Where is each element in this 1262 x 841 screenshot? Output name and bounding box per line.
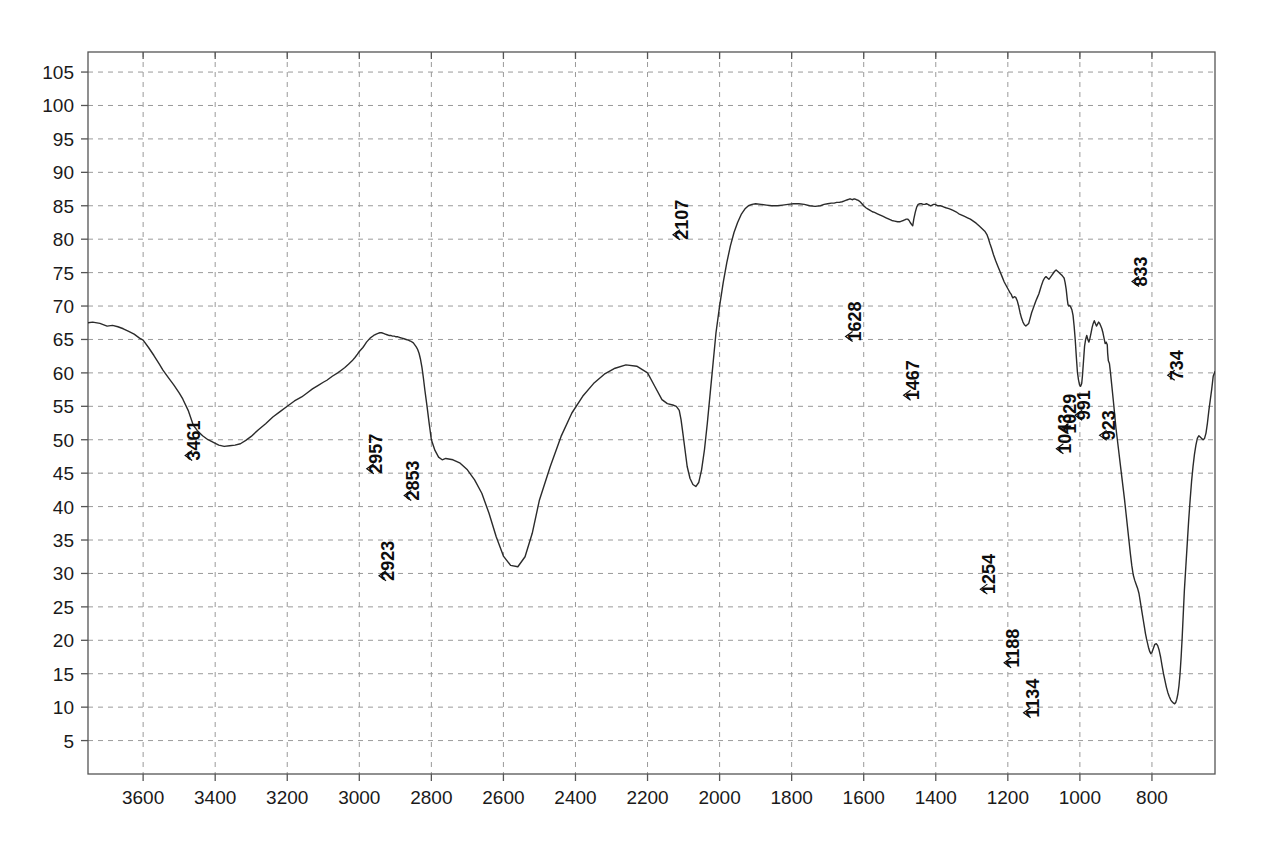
y-tick-label: 105 bbox=[42, 62, 74, 83]
spectrum-chart: 3600340032003000280026002400220020001800… bbox=[0, 0, 1262, 841]
peak-annotation: 923 bbox=[1099, 410, 1119, 440]
peak-annotation: 734 bbox=[1167, 350, 1187, 380]
peak-label-text: 2107 bbox=[672, 200, 692, 240]
y-tick-label: 25 bbox=[53, 597, 74, 618]
x-tick-label: 1000 bbox=[1059, 787, 1101, 808]
y-tick-label: 90 bbox=[53, 162, 74, 183]
peak-label-text: 3461 bbox=[184, 420, 204, 460]
y-tick-label: 95 bbox=[53, 129, 74, 150]
peak-annotation: 1254 bbox=[979, 554, 999, 594]
y-tick-label: 85 bbox=[53, 196, 74, 217]
peak-annotation: 1467 bbox=[903, 360, 923, 400]
peak-label-text: 2853 bbox=[403, 460, 423, 500]
y-tick-label: 40 bbox=[53, 497, 74, 518]
x-tick-label: 2200 bbox=[626, 787, 668, 808]
peak-label-text: 1254 bbox=[979, 554, 999, 594]
x-tick-label: 1400 bbox=[915, 787, 957, 808]
y-tick-label: 55 bbox=[53, 396, 74, 417]
y-tick-label: 45 bbox=[53, 463, 74, 484]
x-tick-label: 3600 bbox=[122, 787, 164, 808]
x-tick-label: 1200 bbox=[987, 787, 1029, 808]
peak-annotation: 833 bbox=[1131, 257, 1151, 287]
x-tick-label: 3200 bbox=[266, 787, 308, 808]
x-tick-label: 3000 bbox=[338, 787, 380, 808]
y-tick-label: 80 bbox=[53, 229, 74, 250]
peak-label-text: 1467 bbox=[903, 360, 923, 400]
y-tick-label: 50 bbox=[53, 430, 74, 451]
y-tick-label: 65 bbox=[53, 329, 74, 350]
x-tick-label: 800 bbox=[1136, 787, 1168, 808]
peak-label-text: 2957 bbox=[366, 434, 386, 474]
y-tick-label: 75 bbox=[53, 263, 74, 284]
y-tick-label: 15 bbox=[53, 664, 74, 685]
peak-annotation: 991 bbox=[1074, 390, 1094, 420]
peak-annotation: 1134 bbox=[1023, 679, 1043, 718]
peak-annotation: 1628 bbox=[845, 301, 865, 341]
x-tick-label: 2800 bbox=[410, 787, 452, 808]
peak-annotation: 2107 bbox=[672, 200, 692, 240]
x-tick-labels: 3600340032003000280026002400220020001800… bbox=[122, 787, 1168, 808]
y-tick-label: 10 bbox=[53, 697, 74, 718]
y-tick-label: 20 bbox=[53, 630, 74, 651]
y-tick-label: 100 bbox=[42, 95, 74, 116]
peak-annotation: 1188 bbox=[1003, 629, 1023, 668]
y-tick-label: 30 bbox=[53, 563, 74, 584]
peak-annotation: 2853 bbox=[403, 460, 423, 500]
peak-annotation: 2957 bbox=[366, 434, 386, 474]
peak-label-text: 991 bbox=[1074, 390, 1094, 420]
peak-label-text: 923 bbox=[1099, 410, 1119, 440]
peak-label-text: 1134 bbox=[1023, 679, 1043, 718]
x-tick-label: 2000 bbox=[698, 787, 740, 808]
peak-label-text: 1628 bbox=[845, 301, 865, 341]
y-tick-label: 5 bbox=[63, 731, 74, 752]
x-tick-label: 1800 bbox=[771, 787, 813, 808]
peak-annotation: 3461 bbox=[184, 420, 204, 460]
peak-label-text: 734 bbox=[1167, 350, 1187, 380]
x-tick-label: 2600 bbox=[482, 787, 524, 808]
y-tick-label: 70 bbox=[53, 296, 74, 317]
peak-label-text: 833 bbox=[1131, 257, 1151, 287]
x-tick-label: 1600 bbox=[843, 787, 885, 808]
x-tick-label: 3400 bbox=[194, 787, 236, 808]
peak-label-text: 1188 bbox=[1003, 629, 1023, 668]
peak-annotation: 2923 bbox=[378, 541, 398, 581]
y-tick-label: 60 bbox=[53, 363, 74, 384]
peak-label-text: 2923 bbox=[378, 541, 398, 581]
y-tick-label: 35 bbox=[53, 530, 74, 551]
ir-spectrum-figure: 3600340032003000280026002400220020001800… bbox=[0, 0, 1262, 841]
x-tick-label: 2400 bbox=[554, 787, 596, 808]
